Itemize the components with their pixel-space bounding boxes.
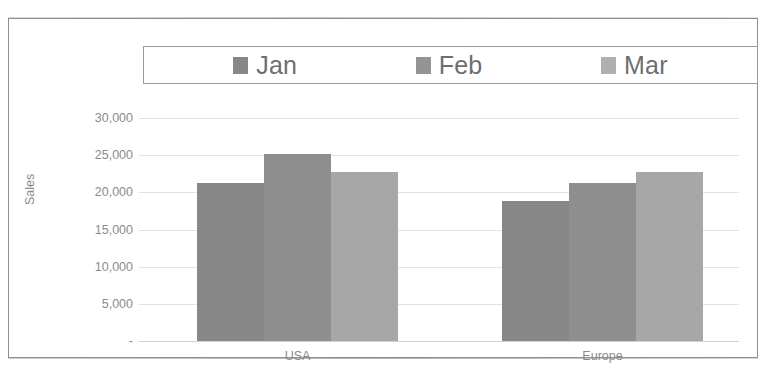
x-tick-label-europe: Europe — [582, 349, 622, 363]
bar-jan-usa[interactable] — [197, 183, 264, 341]
gridline — [139, 118, 739, 119]
legend-entry-feb[interactable]: Feb — [416, 53, 483, 78]
y-tick-label: 5,000 — [63, 297, 133, 311]
gridline — [139, 155, 739, 156]
x-axis-line — [139, 341, 739, 342]
y-axis-tick-labels: 30,00025,00020,00015,00010,0005,000- — [61, 118, 133, 342]
plot-area — [139, 118, 739, 342]
y-tick-label: 25,000 — [63, 148, 133, 162]
y-tick-label: - — [63, 334, 133, 348]
y-tick-label: 15,000 — [63, 223, 133, 237]
y-axis-title: Sales — [23, 174, 37, 205]
legend-swatch-jan — [233, 57, 248, 74]
legend-label-mar: Mar — [624, 53, 668, 78]
legend-entry-jan[interactable]: Jan — [233, 53, 297, 78]
y-tick-label: 10,000 — [63, 260, 133, 274]
chart-legend[interactable]: Jan Feb Mar — [143, 46, 758, 84]
y-tick-label: 20,000 — [63, 185, 133, 199]
bar-feb-usa[interactable] — [264, 154, 331, 341]
chart-container: Jan Feb Mar Sales 30,00025,00020,00015,0… — [0, 0, 776, 374]
x-tick-label-usa: USA — [285, 349, 311, 363]
bar-jan-europe[interactable] — [502, 201, 569, 341]
legend-swatch-mar — [601, 57, 616, 74]
bar-mar-usa[interactable] — [331, 172, 398, 341]
legend-label-jan: Jan — [256, 53, 297, 78]
bar-feb-europe[interactable] — [569, 183, 636, 341]
x-axis-tick-labels: USAEurope — [139, 349, 739, 371]
chart-plot-frame: Jan Feb Mar Sales 30,00025,00020,00015,0… — [8, 18, 758, 358]
legend-label-feb: Feb — [439, 53, 483, 78]
bar-mar-europe[interactable] — [636, 172, 703, 341]
legend-entry-mar[interactable]: Mar — [601, 53, 668, 78]
y-tick-label: 30,000 — [63, 111, 133, 125]
legend-swatch-feb — [416, 57, 431, 74]
